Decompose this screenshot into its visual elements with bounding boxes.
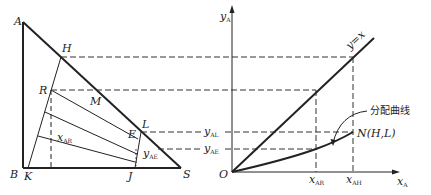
label-E: E <box>127 128 136 141</box>
origin-label: O <box>219 168 228 181</box>
x-tick-AR: xAR <box>309 173 325 186</box>
y-tick-AE: yAE <box>203 142 219 155</box>
y-axis-label: yA <box>219 10 231 23</box>
tie-line-3 <box>38 136 135 162</box>
raffinate-line <box>28 57 61 168</box>
x-axis-arrow-icon <box>392 170 400 175</box>
diagram-canvas: A B S H R M L E K J xAR yAE yA xA O y=x … <box>0 0 431 195</box>
y-tick-AL: yAL <box>203 125 219 138</box>
connector-dashes <box>51 57 353 172</box>
plot-labels: yA xA O y=x yAL yAE xAR xAH 分配曲线 N(H,L) <box>203 10 410 188</box>
label-H: H <box>61 42 72 55</box>
label-K: K <box>23 170 33 183</box>
y-axis-arrow-icon <box>230 5 235 13</box>
label-yAE-left: yAE <box>142 147 158 160</box>
diagonal-label: y=x <box>342 27 368 52</box>
label-xAR-left: xAR <box>57 131 73 144</box>
label-B: B <box>9 168 18 181</box>
x-tick-AH: xAH <box>346 173 362 186</box>
label-L: L <box>141 118 149 131</box>
label-J: J <box>126 170 133 183</box>
point-N-label: N(H,L) <box>356 127 396 140</box>
label-R: R <box>38 84 47 97</box>
label-S: S <box>183 168 191 181</box>
x-axis-label: xA <box>397 175 408 188</box>
triangle-labels: A B S H R M L E K J xAR yAE <box>9 15 191 183</box>
label-M: M <box>89 95 102 108</box>
curve-annotation: 分配曲线 <box>370 104 410 116</box>
label-A: A <box>13 15 22 28</box>
